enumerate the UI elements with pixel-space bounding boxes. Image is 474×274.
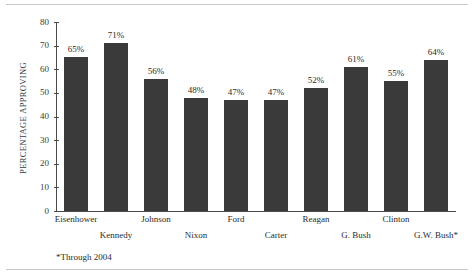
bar-value-label: 71%: [92, 31, 140, 40]
bar-series: 65%71%56%48%47%47%52%61%55%64%: [56, 22, 456, 212]
bottom-divider-rule: [6, 269, 468, 270]
bar-slot: 71%: [96, 22, 136, 211]
bar-value-label: 61%: [332, 55, 380, 64]
bar[interactable]: [184, 98, 208, 211]
bar-slot: 64%: [416, 22, 456, 211]
x-axis-category-label: Eisenhower: [38, 215, 114, 224]
bar[interactable]: [264, 100, 288, 211]
bar-value-label: 55%: [372, 69, 420, 78]
bar-value-label: 65%: [52, 45, 100, 54]
bar-value-label: 47%: [252, 88, 300, 97]
chart-footnote: *Through 2004: [56, 252, 112, 262]
x-axis-category-label: Reagan: [278, 215, 354, 224]
bar-value-label: 52%: [292, 76, 340, 85]
bar[interactable]: [304, 88, 328, 211]
chart-figure: PERCENTAGE APPROVING 01020304050607080 6…: [0, 0, 474, 274]
y-axis-tick-label: 40: [19, 112, 49, 121]
bar[interactable]: [104, 43, 128, 211]
x-axis-category-label: G.W. Bush*: [398, 231, 474, 240]
bar[interactable]: [344, 67, 368, 211]
y-axis-tick-label: 10: [19, 183, 49, 192]
y-axis-tick-label: 60: [19, 65, 49, 74]
bar-slot: 48%: [176, 22, 216, 211]
plot-area: 01020304050607080 65%71%56%48%47%47%52%6…: [56, 22, 456, 212]
bar-slot: 61%: [336, 22, 376, 211]
bar-value-label: 64%: [412, 48, 460, 57]
y-axis-tick-label: 20: [19, 159, 49, 168]
bar[interactable]: [424, 60, 448, 211]
x-axis-category-label: G. Bush: [318, 231, 394, 240]
x-axis-category-label: Ford: [198, 215, 274, 224]
bar[interactable]: [384, 81, 408, 211]
y-axis-tick-label: 80: [19, 18, 49, 27]
bar-slot: 52%: [296, 22, 336, 211]
bar[interactable]: [144, 79, 168, 211]
bar-slot: 47%: [256, 22, 296, 211]
bar-slot: 56%: [136, 22, 176, 211]
bar[interactable]: [64, 57, 88, 211]
x-axis-category-label: Johnson: [118, 215, 194, 224]
bar[interactable]: [224, 100, 248, 211]
x-axis-category-label: Nixon: [158, 231, 234, 240]
x-axis-category-labels: EisenhowerKennedyJohnsonNixonFordCarterR…: [56, 213, 456, 249]
y-axis-tick-label: 50: [19, 88, 49, 97]
y-axis-tick-labels: 01020304050607080: [15, 22, 49, 212]
y-axis-tick-label: 30: [19, 136, 49, 145]
x-axis-category-label: Carter: [238, 231, 314, 240]
bar-slot: 55%: [376, 22, 416, 211]
y-axis-tick-label: 70: [19, 41, 49, 50]
bar-slot: 47%: [216, 22, 256, 211]
bar-value-label: 56%: [132, 67, 180, 76]
top-divider-rule: [6, 4, 468, 5]
x-axis-category-label: Clinton: [358, 215, 434, 224]
bar-slot: 65%: [56, 22, 96, 211]
x-axis-category-label: Kennedy: [78, 231, 154, 240]
